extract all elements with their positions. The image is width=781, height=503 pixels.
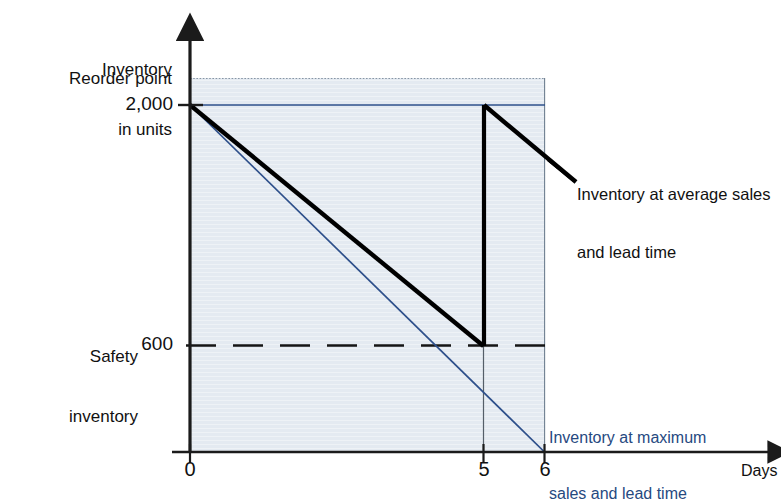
y-axis-title-line2: in units (12, 120, 172, 140)
annotation-maximum-line2: sales and lead time (549, 485, 706, 503)
y-tick-label-600: 600 (60, 333, 173, 355)
safety-inventory-label: Safety inventory (0, 307, 138, 467)
y-tick-label-2000: 2,000 (40, 93, 173, 115)
annotation-average-line2: and lead time (577, 243, 771, 262)
x-tick-label-0: 0 (170, 458, 210, 482)
x-axis-title: Days (741, 462, 777, 481)
reorder-point-label: Reorder point (0, 69, 172, 89)
annotation-average: Inventory at average sales and lead time (577, 146, 771, 302)
inventory-band (190, 78, 545, 452)
annotation-average-line1: Inventory at average sales (577, 185, 771, 204)
leader-average (548, 160, 574, 181)
x-tick-label-5: 5 (464, 458, 504, 482)
annotation-maximum-line1: Inventory at maximum (549, 429, 706, 448)
safety-inventory-line2: inventory (0, 407, 138, 427)
annotation-maximum: Inventory at maximum sales and lead time (549, 391, 706, 503)
